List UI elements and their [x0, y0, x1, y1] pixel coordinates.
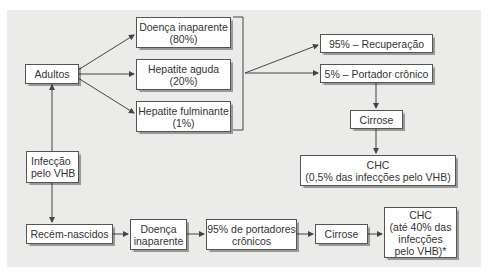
node-adultos: Adultos [25, 64, 79, 84]
node-doenca-inaparente-rn: Doença inaparente [130, 219, 187, 250]
node-chc-adultos: CHC (0,5% das infecções pelo VHB) [300, 155, 456, 186]
node-recuperacao: 95% – Recuperação [320, 34, 433, 53]
node-hepatite-fulminante: Hepatite fulminante (1%) [136, 101, 231, 132]
node-infeccao-vhb: Infecção pelo VHB [26, 151, 79, 183]
node-cirrose-rn: Cirrose [315, 224, 368, 244]
node-portadores-cronicos-rn: 95% de portadores crônicos [206, 219, 297, 250]
node-portador-cronico: 5% – Portador crônico [320, 64, 433, 83]
node-recem-nascidos: Recém-nascidos [26, 224, 113, 244]
node-chc-rn: CHC (até 40% das infecções pelo VHB)* [384, 207, 457, 258]
node-cirrose-adultos: Cirrose [350, 110, 403, 129]
node-hepatite-aguda: Hepatite aguda (20%) [136, 59, 231, 90]
node-doenca-inaparente-adultos: Doença inaparente (80%) [136, 17, 231, 48]
